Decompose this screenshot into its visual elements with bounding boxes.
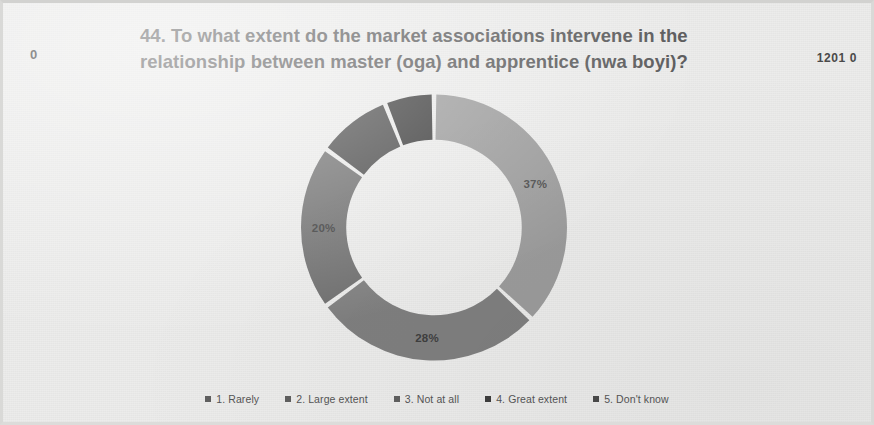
donut-slice	[436, 95, 567, 317]
chart-title-line-2: relationship between master (oga) and ap…	[140, 49, 780, 75]
legend-item-label: 5. Don't know	[604, 393, 669, 405]
legend-item[interactable]: 3. Not at all	[394, 393, 459, 405]
legend-swatch-icon	[394, 396, 400, 402]
legend-item-label: 3. Not at all	[405, 393, 459, 405]
legend-item-label: 1. Rarely	[216, 393, 259, 405]
donut-slice-label: 37%	[523, 178, 547, 190]
chart-title: 44. To what extent do the market associa…	[140, 23, 780, 76]
donut-slice-label: 20%	[312, 222, 336, 234]
donut-slice-group	[301, 95, 567, 361]
legend-swatch-icon	[593, 396, 599, 402]
legend-item[interactable]: 2. Large extent	[285, 393, 368, 405]
corner-marker-left: 0	[30, 47, 38, 62]
chart-title-line-1: 44. To what extent do the market associa…	[140, 23, 780, 49]
legend-item[interactable]: 4. Great extent	[485, 393, 567, 405]
donut-slice	[328, 280, 530, 360]
legend-item-label: 4. Great extent	[496, 393, 567, 405]
legend-swatch-icon	[205, 396, 211, 402]
legend-item-label: 2. Large extent	[296, 393, 368, 405]
legend-item[interactable]: 1. Rarely	[205, 393, 259, 405]
donut-chart: 37%28%20%	[295, 86, 573, 369]
corner-marker-right: 1201 0	[817, 51, 857, 65]
chart-legend: 1. Rarely2. Large extent3. Not at all4. …	[3, 393, 871, 405]
legend-item[interactable]: 5. Don't know	[593, 393, 669, 405]
legend-swatch-icon	[285, 396, 291, 402]
legend-swatch-icon	[485, 396, 491, 402]
donut-chart-svg: 37%28%20%	[295, 86, 573, 369]
slide-canvas: 0 1201 0 44. To what extent do the marke…	[0, 0, 874, 425]
donut-slice-label: 28%	[415, 332, 439, 344]
